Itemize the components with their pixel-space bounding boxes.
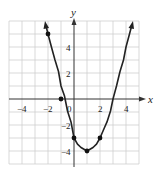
y-tick-label: −2: [61, 121, 71, 131]
data-point: [98, 136, 103, 141]
x-axis-label: x: [147, 93, 153, 105]
x-tick-label: −2: [43, 104, 53, 114]
data-point: [72, 136, 77, 141]
y-tick-label: 2: [66, 69, 71, 79]
parabola-curve: [46, 28, 131, 152]
y-axis-arrow-icon: [72, 18, 77, 25]
x-tick-label: 2: [98, 104, 103, 114]
curve-arrow-right-icon: [129, 21, 135, 29]
y-tick-label: 4: [66, 43, 71, 53]
data-point: [85, 149, 90, 154]
x-axis-arrow-icon: [139, 97, 146, 102]
data-point: [46, 32, 51, 37]
data-point: [59, 97, 64, 102]
x-tick-label: −4: [17, 104, 27, 114]
y-axis-label: y: [70, 6, 76, 18]
axes: [9, 22, 142, 167]
y-tick-label: −4: [61, 147, 71, 157]
parabola-chart: x y −4 −2 0 2 4 4 2 −2 −4: [0, 0, 159, 175]
x-tick-label: 4: [124, 104, 129, 114]
